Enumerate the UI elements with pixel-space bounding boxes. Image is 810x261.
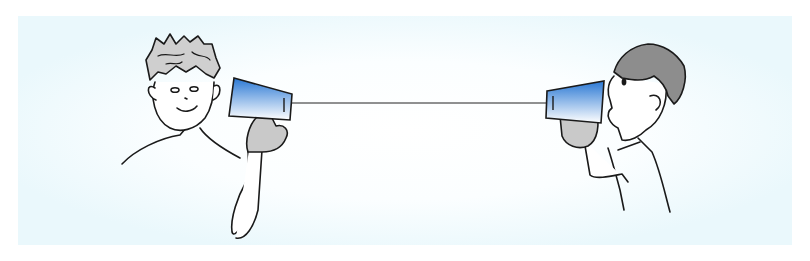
illustration-canvas xyxy=(0,0,810,261)
background-panel xyxy=(18,16,792,245)
tin-can-telephone-illustration xyxy=(0,0,810,261)
